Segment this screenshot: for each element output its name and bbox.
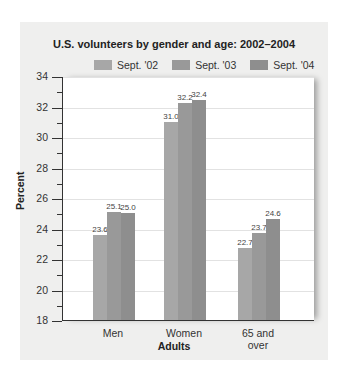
bar — [164, 122, 178, 320]
y-tick-label: 34 — [24, 70, 48, 82]
gridline — [63, 77, 314, 78]
bar — [121, 213, 135, 320]
y-tick-label: 30 — [24, 131, 48, 143]
y-tick — [52, 291, 62, 292]
bar — [192, 100, 206, 320]
y-tick — [52, 108, 62, 109]
y-axis-title: Percent — [14, 171, 26, 210]
legend-swatch — [250, 60, 268, 70]
legend: Sept. '02 Sept. '03 Sept. '04 — [94, 59, 314, 71]
bar — [93, 235, 107, 320]
y-tick-label: 22 — [24, 253, 48, 265]
bar-value-label: 32.4 — [187, 90, 211, 99]
x-axis-title: Adults — [20, 340, 328, 352]
bar — [252, 233, 266, 320]
legend-item-sept-02: Sept. '02 — [94, 59, 158, 71]
legend-swatch — [172, 60, 190, 70]
bar — [178, 103, 192, 320]
legend-item-sept-04: Sept. '04 — [250, 59, 314, 71]
bar — [107, 212, 121, 320]
y-tick — [52, 321, 62, 322]
legend-item-sept-03: Sept. '03 — [172, 59, 236, 71]
y-tick — [52, 77, 62, 78]
chart-title: U.S. volunteers by gender and age: 2002–… — [20, 38, 328, 50]
bar-value-label: 25.0 — [116, 203, 140, 212]
bar — [238, 248, 252, 320]
y-tick — [52, 199, 62, 200]
y-tick — [52, 230, 62, 231]
legend-swatch — [94, 60, 112, 70]
y-tick — [52, 138, 62, 139]
bar — [266, 219, 280, 320]
legend-label: Sept. '02 — [117, 59, 158, 71]
y-tick-label: 20 — [24, 284, 48, 296]
y-tick — [52, 260, 62, 261]
x-tick-label: Men — [83, 327, 143, 339]
y-tick-label: 28 — [24, 162, 48, 174]
y-tick-label: 18 — [24, 314, 48, 326]
plot-area: 23.625.125.031.032.232.422.723.724.6 — [62, 77, 314, 321]
y-tick — [52, 169, 62, 170]
bar-value-label: 24.6 — [261, 209, 285, 218]
y-tick-label: 32 — [24, 101, 48, 113]
legend-label: Sept. '03 — [195, 59, 236, 71]
legend-label: Sept. '04 — [273, 59, 314, 71]
x-tick-label: Women — [154, 327, 214, 339]
y-tick-label: 26 — [24, 192, 48, 204]
y-tick-label: 24 — [24, 223, 48, 235]
